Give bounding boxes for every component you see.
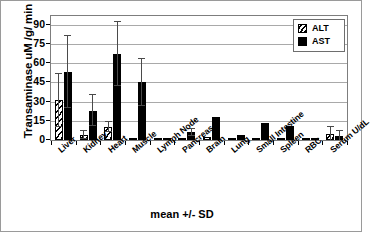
x-tick-mark <box>51 141 52 145</box>
black-square-icon <box>298 37 307 46</box>
x-axis-title: mean +/- SD <box>1 208 363 220</box>
gridline <box>51 82 347 83</box>
y-tick-label: 60 <box>23 57 45 68</box>
gridline <box>51 63 347 64</box>
error-bar-cap <box>138 105 145 106</box>
error-bar-cap <box>138 58 145 59</box>
y-tick-label: 90 <box>23 19 45 30</box>
error-bar-cap <box>55 73 62 74</box>
legend-label-alt: ALT <box>312 24 329 33</box>
error-bar-cap <box>80 138 87 139</box>
error-bar-cap <box>80 130 87 131</box>
legend-label-ast: AST <box>312 37 330 46</box>
error-bar <box>92 95 93 126</box>
chart-legend: ALT AST <box>293 19 345 52</box>
error-bar <box>330 127 331 140</box>
error-bar-cap <box>114 85 121 86</box>
bar-small-intestine-alt <box>252 138 260 140</box>
error-bar-cap <box>89 125 96 126</box>
error-bar <box>58 74 59 128</box>
hatched-square-icon <box>298 24 307 33</box>
error-bar-cap <box>105 121 112 122</box>
error-bar <box>117 22 118 86</box>
error-bar-cap <box>55 126 62 127</box>
gridline <box>51 102 347 103</box>
bar-lung-alt <box>228 138 236 140</box>
error-bar <box>141 59 142 105</box>
y-tick-label: 30 <box>23 96 45 107</box>
error-bar-cap <box>336 130 343 131</box>
error-bar <box>67 36 68 108</box>
y-tick-label: 0 <box>23 134 45 145</box>
error-bar-cap <box>89 94 96 95</box>
bar-muscle-alt <box>129 138 137 140</box>
y-tick-label: 75 <box>23 38 45 49</box>
error-bar-cap <box>327 126 334 127</box>
error-bar-cap <box>64 35 71 36</box>
y-tick-label: 45 <box>23 76 45 87</box>
legend-item-ast: AST <box>298 35 341 48</box>
error-bar-cap <box>114 21 121 22</box>
error-bar-cap <box>64 107 71 108</box>
legend-item-alt: ALT <box>298 22 341 35</box>
y-tick-label: 15 <box>23 115 45 126</box>
